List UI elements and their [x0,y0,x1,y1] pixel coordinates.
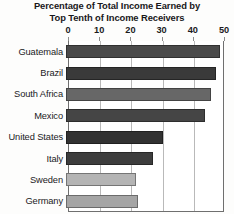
bar-track [66,191,222,212]
x-axis-tick-labels: 01020304050 [0,25,234,37]
category-label-guatemala: Guatemala [0,47,66,57]
bar-track [66,84,222,105]
x-tick-label-10: 10 [94,25,104,35]
chart-title-line-1: Percentage of Total Income Earned by [0,0,234,12]
category-label-sweden: Sweden [0,175,66,185]
x-tick-label-20: 20 [125,25,135,35]
bar-row: South Africa [0,84,234,105]
bar-south-africa [66,88,211,101]
bar-track [66,105,222,126]
bar-guatemala [66,45,220,58]
category-label-mexico: Mexico [0,111,66,121]
bar-row: Guatemala [0,41,234,62]
x-tick-label-40: 40 [188,25,198,35]
bar-row: Mexico [0,105,234,126]
chart-title-line-2: Top Tenth of Income Receivers [0,12,234,24]
bar-track [66,62,222,83]
bar-row: Germany [0,191,234,212]
x-tick-label-0: 0 [65,25,70,35]
bar-row: Brazil [0,62,234,83]
bar-united-states [66,131,163,144]
chart-title: Percentage of Total Income Earned by Top… [0,0,234,23]
bar-sweden [66,173,136,186]
bar-row: Italy [0,148,234,169]
bar-row: Sweden [0,169,234,190]
bar-rows: GuatemalaBrazilSouth AfricaMexicoUnited … [0,41,234,212]
category-label-south-africa: South Africa [0,89,66,99]
bar-chart: Percentage of Total Income Earned by Top… [0,0,234,214]
bar-track [66,41,222,62]
bar-brazil [66,67,216,80]
category-label-united-states: United States [0,132,66,142]
x-tick-label-50: 50 [219,25,229,35]
x-tick-label-30: 30 [156,25,166,35]
bar-row: United States [0,127,234,148]
bar-germany [66,195,138,208]
bar-track [66,148,222,169]
category-label-italy: Italy [0,154,66,164]
bar-italy [66,152,153,165]
bar-mexico [66,109,205,122]
category-label-germany: Germany [0,196,66,206]
bar-track [66,169,222,190]
category-label-brazil: Brazil [0,68,66,78]
bar-track [66,127,222,148]
